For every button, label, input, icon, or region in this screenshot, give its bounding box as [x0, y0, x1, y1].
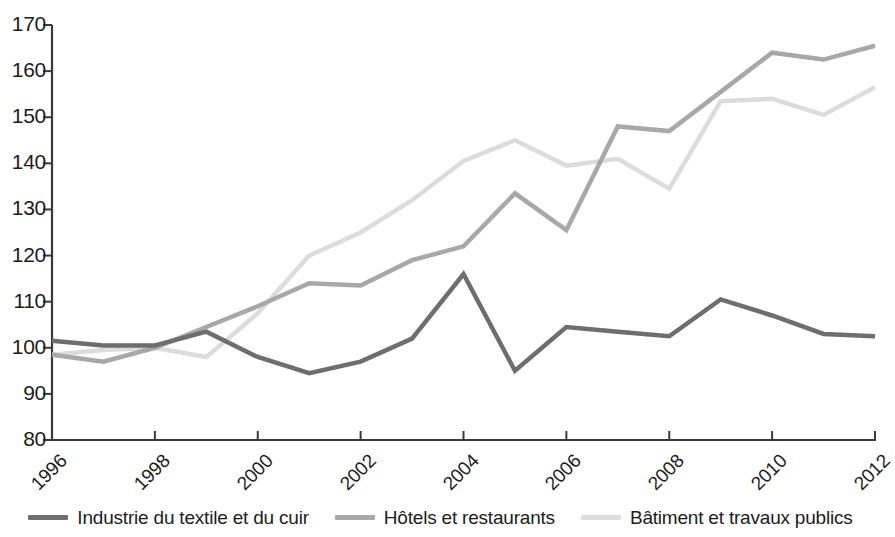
series-line: [52, 274, 875, 373]
y-axis-tick-label: 90: [0, 381, 46, 405]
series-line: [52, 46, 875, 362]
legend-item-label: Hôtels et restaurants: [384, 507, 555, 529]
y-axis-tick-label: 110: [0, 289, 46, 313]
legend-item-label: Bâtiment et travaux publics: [630, 507, 853, 529]
legend-line-swatch: [28, 515, 68, 520]
axis-lines: [52, 25, 876, 440]
legend-item[interactable]: Bâtiment et travaux publics: [581, 507, 853, 529]
y-axis-tick-label: 120: [0, 243, 46, 267]
y-axis-tick-label: 160: [0, 58, 46, 82]
legend-item-label: Industrie du textile et du cuir: [77, 507, 308, 529]
series-line: [52, 87, 875, 357]
legend-line-swatch: [335, 515, 375, 520]
y-axis-ticks: [43, 25, 52, 440]
legend-item[interactable]: Industrie du textile et du cuir: [28, 507, 308, 529]
y-axis-tick-label: 150: [0, 104, 46, 128]
y-axis-tick-label: 130: [0, 196, 46, 220]
x-axis-ticks: [52, 431, 875, 440]
chart-legend: Industrie du textile et du cuirHôtels et…: [0, 498, 881, 537]
y-axis-tick-label: 80: [0, 427, 46, 451]
y-axis-tick-label: 100: [0, 335, 46, 359]
data-series-group: [52, 46, 875, 373]
y-axis-tick-label: 170: [0, 12, 46, 36]
legend-item[interactable]: Hôtels et restaurants: [335, 507, 555, 529]
y-axis-tick-label: 140: [0, 150, 46, 174]
legend-line-swatch: [581, 515, 621, 520]
